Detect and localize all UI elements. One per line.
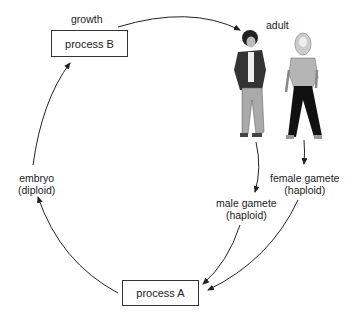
process-a-box: process A bbox=[122, 280, 199, 306]
female-gamete-ploidy: (haploid) bbox=[270, 184, 339, 196]
arrow-process-a-to-embryo bbox=[38, 197, 118, 293]
embryo-ploidy: (diploid) bbox=[18, 184, 55, 196]
female-gamete-label: female gamete (haploid) bbox=[270, 172, 339, 196]
arrow-male-to-gamete bbox=[255, 142, 259, 192]
process-a-label: process A bbox=[136, 287, 184, 299]
process-b-box: process B bbox=[51, 30, 128, 57]
male-gamete-label: male gamete (haploid) bbox=[216, 197, 277, 221]
embryo-label: embryo (diploid) bbox=[18, 172, 55, 196]
female-gamete-name: female gamete bbox=[270, 172, 339, 184]
growth-label: growth bbox=[71, 13, 103, 25]
male-adult-figure bbox=[234, 30, 266, 137]
arrow-embryo-to-process-b bbox=[33, 63, 70, 165]
male-gamete-name: male gamete bbox=[216, 197, 277, 209]
female-adult-figure bbox=[286, 33, 322, 139]
arrow-female-to-gamete bbox=[304, 140, 305, 164]
arrow-growth bbox=[118, 17, 240, 30]
male-gamete-ploidy: (haploid) bbox=[216, 209, 277, 221]
process-b-label: process B bbox=[65, 38, 114, 50]
adult-label: adult bbox=[266, 19, 289, 31]
embryo-name: embryo bbox=[18, 172, 55, 184]
